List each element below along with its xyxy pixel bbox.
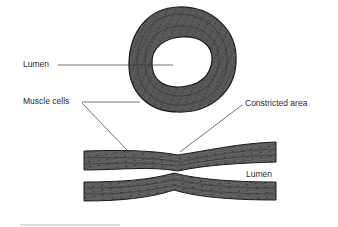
muscle-cells-leader-wall bbox=[82, 103, 127, 150]
vessel-diagram bbox=[0, 0, 338, 227]
cross-section-ring bbox=[129, 7, 236, 112]
label-lumen-bottom: Lumen bbox=[246, 170, 272, 179]
longitudinal-upper-wall bbox=[84, 142, 276, 171]
label-lumen-top: Lumen bbox=[23, 60, 49, 69]
label-constricted-area: Constricted area bbox=[245, 99, 307, 108]
label-muscle-cells: Muscle cells bbox=[23, 97, 69, 106]
